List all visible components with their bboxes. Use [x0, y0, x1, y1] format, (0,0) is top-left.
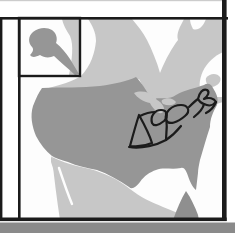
frame-right-border [222, 0, 227, 221]
frame-outer-left-border [0, 18, 2, 221]
frame-top-border [0, 17, 228, 20]
north-america-map [0, 0, 235, 233]
map-figure [0, 0, 235, 233]
alaska-inset [19, 18, 80, 76]
frame-left-border [18, 17, 21, 221]
frame-bottom-border [0, 218, 227, 222]
top-hairline [0, 0, 223, 1]
bottom-gray-strip [0, 223, 235, 234]
